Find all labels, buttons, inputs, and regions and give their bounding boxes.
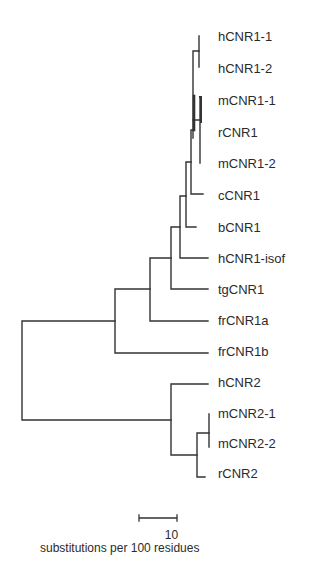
leaf-label-hcnr1-2: hCNR1-2 xyxy=(218,62,272,76)
leaf-label-bcnr1: bCNR1 xyxy=(218,221,261,235)
scale-bar-value-text: 10 xyxy=(165,528,178,542)
leaf-label-rcnr2: rCNR2 xyxy=(218,467,258,481)
leaf-label-hcnr1-1: hCNR1-1 xyxy=(218,30,272,44)
leaf-label-ccnr1: cCNR1 xyxy=(218,189,260,203)
node-ccnr1 xyxy=(191,130,203,194)
leaf-label-mcnr1-2: mCNR1-2 xyxy=(218,157,276,171)
node-mcnr1-rcnr1 xyxy=(200,97,201,122)
leaf-label-frcnr1a: frCNR1a xyxy=(218,314,269,328)
leaf-label-rcnr1: rCNR1 xyxy=(218,126,258,140)
leaf-label-mcnr2-1: mCNR2-1 xyxy=(218,407,276,421)
node-rcnr2 xyxy=(197,433,209,477)
node-cnr2 xyxy=(171,384,208,455)
leaf-label-frcnr1b: frCNR1b xyxy=(218,345,269,359)
phylogenetic-tree xyxy=(0,0,327,572)
leaf-label-hcnr2: hCNR2 xyxy=(218,376,261,390)
scale-bar-caption: substitutions per 100 residues xyxy=(40,541,199,555)
scale-bar xyxy=(139,515,177,521)
leaf-label-tgcnr1: tgCNR1 xyxy=(218,283,264,297)
leaf-label-hcnr1-isof: hCNR1-isof xyxy=(218,252,285,266)
leaf-label-mcnr1-1: mCNR1-1 xyxy=(218,94,276,108)
leaf-label-mcnr2-2: mCNR2-2 xyxy=(218,437,276,451)
root-branch xyxy=(22,321,171,420)
scale-bar-value: 10 xyxy=(0,528,327,542)
